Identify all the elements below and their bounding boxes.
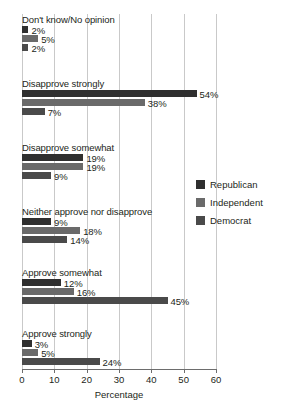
legend-item-democrat[interactable]: Democrat (196, 214, 263, 227)
gridline-40 (151, 14, 152, 369)
bar-independent (22, 163, 83, 170)
legend-item-republican[interactable]: Republican (196, 178, 263, 191)
bar-chart: Don't know/No opinion2%5%2%Disapprove st… (0, 0, 287, 417)
bar-value-label: 24% (103, 356, 122, 367)
gridlines (22, 14, 216, 369)
bar-republican (22, 218, 51, 225)
plot-area: Don't know/No opinion2%5%2%Disapprove st… (22, 14, 216, 369)
group-label: Disapprove strongly (22, 78, 104, 89)
bar-democrat (22, 358, 100, 365)
x-tick-0 (22, 369, 23, 373)
bar-value-label: 38% (148, 97, 167, 108)
x-tick-label-0: 0 (19, 374, 24, 385)
bar-value-label: 5% (41, 347, 55, 358)
x-axis-title: Percentage (22, 389, 216, 400)
legend-swatch-icon (196, 180, 205, 189)
bar-democrat (22, 236, 67, 243)
bar-democrat (22, 108, 45, 115)
legend-label: Republican (210, 179, 258, 190)
bar-republican (22, 26, 28, 33)
legend-item-independent[interactable]: Independent (196, 196, 263, 209)
group-label: Neither approve nor disapprove (22, 206, 152, 217)
bar-democrat (22, 172, 51, 179)
x-tick-label-20: 20 (81, 374, 92, 385)
x-tick-60 (216, 369, 217, 373)
bar-independent (22, 227, 80, 234)
x-tick-label-10: 10 (49, 374, 60, 385)
bar-independent (22, 288, 74, 295)
legend: RepublicanIndependentDemocrat (196, 178, 263, 232)
gridline-0 (22, 14, 23, 369)
bar-republican (22, 279, 61, 286)
bar-independent (22, 349, 38, 356)
bar-value-label: 2% (31, 42, 45, 53)
bar-value-label: 9% (54, 216, 68, 227)
bar-republican (22, 340, 32, 347)
x-tick-label-40: 40 (146, 374, 157, 385)
bar-independent (22, 35, 38, 42)
bar-value-label: 9% (54, 170, 68, 181)
bar-value-label: 7% (48, 106, 62, 117)
gridline-50 (184, 14, 185, 369)
x-tick-10 (54, 369, 55, 373)
bar-republican (22, 154, 83, 161)
gridline-20 (87, 14, 88, 369)
bar-democrat (22, 44, 28, 51)
x-tick-40 (151, 369, 152, 373)
bar-value-label: 45% (171, 295, 190, 306)
x-tick-20 (87, 369, 88, 373)
bar-value-label: 14% (70, 234, 89, 245)
x-tick-30 (119, 369, 120, 373)
bar-independent (22, 99, 145, 106)
legend-label: Independent (210, 197, 263, 208)
legend-swatch-icon (196, 216, 205, 225)
bar-value-label: 16% (77, 286, 96, 297)
x-tick-label-50: 50 (178, 374, 189, 385)
bar-value-label: 54% (200, 88, 219, 99)
bar-value-label: 19% (86, 161, 105, 172)
bar-republican (22, 90, 197, 97)
x-tick-50 (184, 369, 185, 373)
legend-label: Democrat (210, 215, 251, 226)
bar-democrat (22, 297, 168, 304)
x-tick-label-30: 30 (114, 374, 125, 385)
gridline-30 (119, 14, 120, 369)
group-label: Approve strongly (22, 328, 92, 339)
x-tick-label-60: 60 (211, 374, 222, 385)
gridline-10 (54, 14, 55, 369)
group-label: Approve somewhat (22, 267, 102, 278)
legend-swatch-icon (196, 198, 205, 207)
